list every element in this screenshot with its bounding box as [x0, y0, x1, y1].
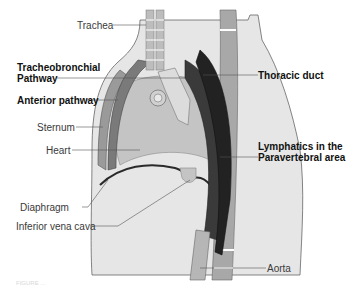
label-heart: Heart	[46, 145, 70, 156]
label-diaphragm: Diaphragm	[20, 202, 69, 213]
label-anterior-pathway: Anterior pathway	[17, 95, 99, 106]
label-lymphatics-2: Paravertebral area	[258, 152, 345, 163]
label-aorta: Aorta	[267, 263, 291, 274]
label-tracheobronchial-1: Tracheobronchial	[17, 62, 100, 73]
label-trachea: Trachea	[77, 20, 113, 31]
label-inferior-vena-cava: Inferior vena cava	[16, 221, 96, 232]
label-sternum: Sternum	[37, 122, 75, 133]
label-lymphatics-1: Lymphatics in the	[258, 141, 343, 152]
label-tracheobronchial-2: Pathway	[17, 73, 58, 84]
label-thoracic-duct: Thoracic duct	[258, 70, 324, 81]
figure-caption: FIGURE ...	[16, 280, 45, 286]
